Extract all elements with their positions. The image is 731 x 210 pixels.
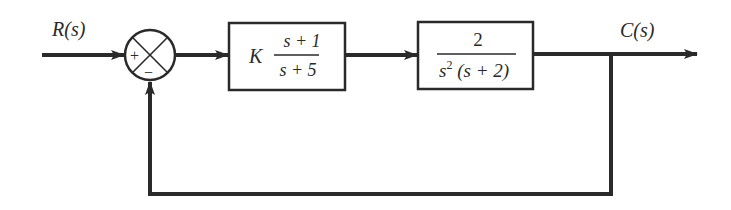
minus-sign: − [144,64,153,81]
plant-denominator-rest: (s + 2) [452,60,509,82]
plant-block: 2 s2 (s + 2) [418,22,533,89]
controller-numerator: s + 1 [283,31,320,51]
plant-numerator: 2 [473,29,483,50]
feedback-path [150,54,611,194]
controller-denominator: s + 5 [279,60,316,80]
block-diagram: R(s) + − K s + 1 s + 5 2 s2 (s + 2) C(s) [0,0,731,210]
summing-junction: + − [125,30,175,81]
output-label: C(s) [620,19,655,42]
controller-block: K s + 1 s + 5 [229,23,345,90]
plus-sign: + [130,47,139,64]
plant-denominator-base: s [439,60,446,81]
gain-k: K [248,45,264,67]
input-label: R(s) [51,18,86,41]
